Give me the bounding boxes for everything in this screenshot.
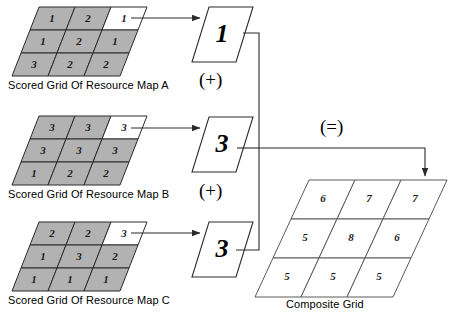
extracted-value-map-c: 3 (202, 236, 242, 262)
composite-grid (255, 180, 447, 297)
source-grid-map-c (12, 222, 147, 291)
extracted-value-map-b: 3 (202, 131, 242, 157)
operator-equals: (=) (320, 116, 343, 138)
caption-composite-grid: Composite Grid (286, 298, 364, 310)
operator-plus-2: (+) (199, 180, 222, 202)
connector-bus-to-composite (259, 148, 425, 176)
caption-map-b: Scored Grid Of Resource Map B (8, 188, 169, 200)
extracted-value-map-a: 1 (202, 21, 242, 47)
diagram-canvas: 1 2 1 1 2 1 3 2 2 Scored Grid Of Resourc… (0, 0, 449, 315)
source-grid-map-b (12, 116, 147, 185)
operator-plus-1: (+) (199, 69, 222, 91)
caption-map-c: Scored Grid Of Resource Map C (8, 294, 170, 306)
source-grid-map-a (12, 7, 147, 76)
caption-map-a: Scored Grid Of Resource Map A (8, 79, 169, 91)
